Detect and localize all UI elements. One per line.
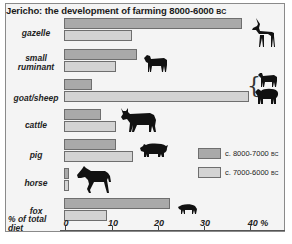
bar-small-ruminant-7000 (64, 61, 116, 72)
bar-fox-8000 (64, 198, 170, 209)
x-axis-title: % of totaldiet (8, 215, 46, 233)
title-era: BC (216, 8, 226, 15)
small-ruminant-icon (144, 55, 168, 73)
bar-pig-8000 (64, 139, 116, 150)
legend-text: c. 7000-6000 (225, 168, 271, 177)
bar-cattle-7000 (64, 121, 116, 132)
bar-gazelle-8000 (64, 18, 242, 29)
category-label-cattle: cattle (7, 121, 65, 130)
label-line: ruminant (18, 62, 54, 72)
category-label-small-ruminant: smallruminant (7, 54, 65, 72)
pig-icon (140, 143, 168, 157)
fox-icon (178, 204, 197, 215)
bar-small-ruminant-8000 (64, 49, 137, 60)
legend-label-8000: c. 8000-7000 BC (225, 149, 279, 158)
chart-title: Jericho: the development of farming 8000… (6, 5, 226, 16)
bar-gazelle-7000 (64, 30, 132, 41)
tick-label-10: 10 (108, 218, 118, 228)
tick-label-0: 0 (63, 218, 68, 228)
axis-title-line: diet (8, 223, 23, 233)
legend-swatch-7000 (198, 167, 221, 178)
cattle-icon (120, 108, 158, 134)
tick-label-20: 20 (154, 218, 164, 228)
legend-text: c. 8000-7000 (225, 149, 271, 158)
category-label-horse: horse (7, 179, 65, 188)
bar-pig-7000 (64, 151, 133, 162)
legend-label-7000: c. 7000-6000 BC (225, 168, 279, 177)
bar-goat-sheep-8000 (64, 79, 92, 90)
legend-era: BC (271, 170, 279, 176)
category-label-goat-sheep: goat/sheep (5, 94, 67, 103)
bar-goat-sheep-7000 (64, 91, 249, 102)
bar-horse-8000 (64, 168, 69, 179)
x-axis-line (60, 230, 285, 231)
title-text: Jericho: the development of farming 8000… (6, 5, 214, 16)
goat-icon (258, 73, 278, 87)
tick-label-40: 40 % (248, 218, 269, 228)
tick-label-30: 30 (200, 218, 210, 228)
gazelle-icon (250, 18, 276, 48)
bar-horse-7000 (64, 180, 69, 191)
legend-swatch-8000 (198, 148, 221, 159)
legend-era: BC (271, 151, 279, 157)
sheep-icon (255, 88, 279, 104)
bar-cattle-8000 (64, 109, 101, 120)
bar-fox-7000 (64, 210, 107, 221)
horse-icon (77, 166, 111, 194)
category-label-gazelle: gazelle (7, 29, 65, 38)
category-label-pig: pig (7, 151, 65, 160)
